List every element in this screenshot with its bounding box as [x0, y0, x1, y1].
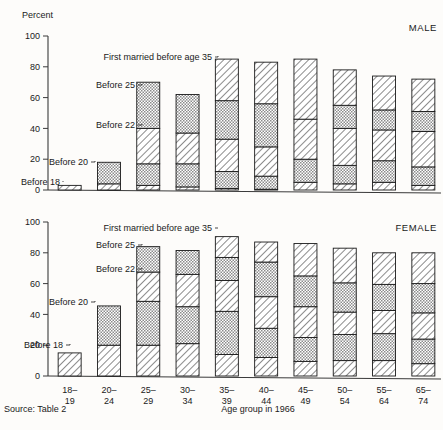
bar-segment [333, 334, 356, 360]
bar-35-39 [215, 237, 238, 376]
leader-line [91, 301, 95, 302]
bar-segment [137, 82, 160, 128]
bar-segment [215, 311, 238, 354]
bar-segment [412, 185, 435, 190]
bar-18-19 [58, 353, 81, 376]
bar-segment [294, 59, 317, 119]
annotation-before-22: Before 22 [96, 264, 135, 274]
bar-segment [333, 105, 356, 128]
x-category-label: 25– [141, 385, 156, 395]
bar-segment [176, 274, 199, 306]
x-category-label: 40– [259, 385, 274, 395]
bar-segment [373, 334, 396, 361]
bar-segment [176, 95, 199, 133]
panel-female: 02040608010018–1920–2425–2930–3435–3940–… [24, 217, 441, 406]
bar-40-44 [255, 242, 278, 376]
bar-25-29 [137, 82, 160, 190]
x-category-label: 55– [377, 385, 392, 395]
x-category-label: 74 [418, 396, 428, 406]
y-tick-label: 40 [30, 124, 40, 134]
bar-segment [294, 244, 317, 276]
bar-segment [176, 133, 199, 164]
y-tick-label: 40 [30, 310, 40, 320]
bar-segment [412, 364, 435, 376]
bar-segment [255, 262, 278, 297]
chart-svg: 020406080100Before 18Before 20Before 22B… [0, 0, 443, 430]
x-category-label: 54 [340, 396, 350, 406]
bar-segment [294, 276, 317, 307]
annotation-before-25: Before 25 [96, 240, 135, 250]
bar-segment [255, 242, 278, 262]
bar-40-44 [255, 62, 278, 190]
bar-30-34 [176, 250, 199, 376]
bar-segment [412, 167, 435, 185]
bar-segment [137, 128, 160, 163]
bar-segment [255, 297, 278, 329]
bar-segment [215, 281, 238, 312]
bar-35-39 [215, 59, 238, 190]
bar-segment [137, 301, 160, 345]
leader-line [215, 56, 218, 57]
bar-segment [97, 306, 120, 345]
bar-segment [412, 253, 435, 284]
bar-segment [412, 339, 435, 364]
bar-segment [215, 354, 238, 376]
bar-segment [373, 253, 396, 285]
bar-segment [215, 59, 238, 101]
bar-segment [215, 237, 238, 258]
bar-segment [176, 344, 199, 376]
bar-segment [137, 345, 160, 376]
bar-55-64 [373, 253, 396, 376]
bar-30-34 [176, 95, 199, 190]
bar-segment [373, 284, 396, 310]
bar-segment [255, 328, 278, 357]
bar-segment [412, 131, 435, 166]
bar-segment [294, 361, 317, 376]
leader-line [66, 344, 70, 345]
x-category-label: 45– [298, 385, 313, 395]
bar-segment [176, 187, 199, 190]
leader-line [91, 161, 95, 162]
bar-segment [58, 353, 81, 376]
bar-segment [215, 101, 238, 139]
bar-segment [176, 164, 199, 187]
bar-segment [333, 283, 356, 312]
bar-45-49 [294, 59, 317, 190]
bar-65-74 [412, 253, 435, 376]
annotation-before-25: Before 25 [96, 80, 135, 90]
source-note: Source: Table 2 [4, 404, 66, 414]
x-axis-title: Age group in 1966 [221, 404, 295, 414]
y-tick-label: 60 [30, 93, 40, 103]
bar-segment [255, 147, 278, 176]
x-category-label: 18– [62, 385, 77, 395]
bar-20-24 [97, 306, 120, 376]
bar-segment [176, 307, 199, 344]
annotation-before-18: Before 18 [21, 177, 60, 187]
annotation-before-18: Before 18 [24, 340, 63, 350]
marriage-cumulative-chart: 020406080100Before 18Before 20Before 22B… [0, 0, 443, 430]
y-tick-label: 80 [30, 248, 40, 258]
panel-label-male: MALE [409, 22, 437, 33]
x-category-label: 29 [143, 396, 153, 406]
x-category-label: 20– [101, 385, 116, 395]
bar-segment [373, 311, 396, 334]
annotation-before-35: First married before age 35 [103, 52, 212, 62]
annotation-before-20: Before 20 [49, 157, 88, 167]
y-tick-label: 20 [30, 154, 40, 164]
bar-segment [97, 162, 120, 184]
x-category-label: 35– [219, 385, 234, 395]
bar-segment [215, 172, 238, 189]
bar-segment [255, 104, 278, 147]
x-category-label: 50– [337, 385, 352, 395]
bar-segment [373, 182, 396, 190]
bar-segment [215, 257, 238, 280]
bar-segment [333, 184, 356, 190]
bar-segment [373, 161, 396, 183]
bar-segment [412, 111, 435, 131]
bar-segment [58, 185, 81, 190]
bar-segment [294, 338, 317, 362]
y-tick-label: 80 [30, 62, 40, 72]
bar-segment [255, 358, 278, 376]
bar-segment [137, 247, 160, 272]
bar-segment [215, 139, 238, 171]
